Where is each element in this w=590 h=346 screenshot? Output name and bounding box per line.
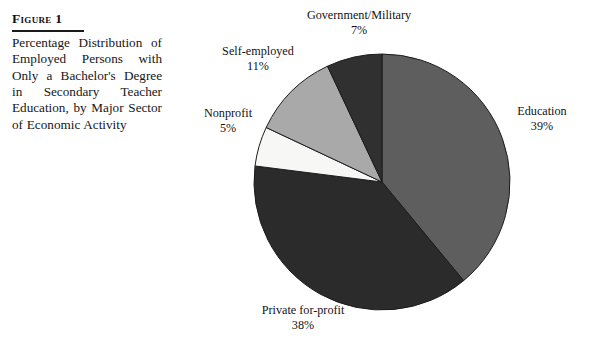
slice-name-self-employed: Self-employed: [222, 44, 294, 58]
slice-pct-nonprofit: 5%: [172, 121, 284, 136]
slice-name-government-military: Government/Military: [307, 8, 411, 22]
slice-name-nonprofit: Nonprofit: [204, 106, 252, 120]
slice-label-nonprofit: Nonprofit 5%: [172, 106, 284, 135]
slice-pct-education: 39%: [497, 119, 587, 134]
slice-label-self-employed: Self-employed 11%: [188, 44, 328, 73]
slice-pct-government-military: 7%: [279, 23, 439, 38]
slice-label-education: Education 39%: [497, 104, 587, 133]
slice-pct-self-employed: 11%: [188, 59, 328, 74]
slice-pct-private-for-profit: 38%: [228, 318, 378, 333]
slice-name-private-for-profit: Private for-profit: [262, 303, 345, 317]
pie-chart: Government/Military 7% Self-employed 11%…: [0, 0, 590, 346]
pie-slice-group: [254, 54, 510, 310]
slice-name-education: Education: [517, 104, 566, 118]
slice-label-private-for-profit: Private for-profit 38%: [228, 303, 378, 332]
slice-label-government-military: Government/Military 7%: [279, 8, 439, 37]
